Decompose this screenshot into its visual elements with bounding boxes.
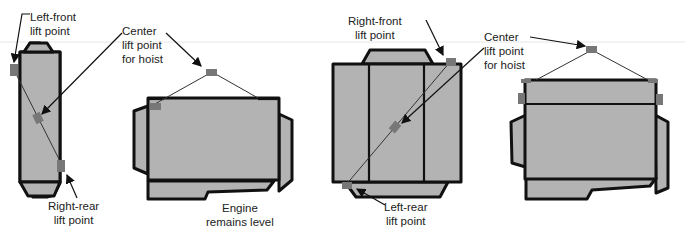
- engine-lift-diagram: Left-front lift point Center lift point …: [0, 0, 685, 245]
- label-center-lift-point-1: Center lift point for hoist: [122, 24, 163, 66]
- label-center-lift-point-2: Center lift point for hoist: [484, 30, 525, 72]
- label-left-rear-lift-point: Left-rear lift point: [384, 200, 427, 228]
- left-lift-point: [518, 93, 525, 104]
- center-lift-point: [586, 46, 597, 53]
- label-right-rear-lift-point: Right-rear lift point: [48, 199, 99, 227]
- left-rear-lift-point: [342, 182, 352, 189]
- label-left-front-lift-point: Left-front lift point: [30, 10, 76, 38]
- diagram-drawing: [0, 0, 685, 245]
- left-front-lift-point: [10, 64, 18, 76]
- center-lift-point: [206, 69, 217, 76]
- front-lift-point: [150, 103, 161, 110]
- label-right-front-lift-point: Right-front lift point: [348, 14, 402, 42]
- panel-3-engine-top-view: [333, 20, 484, 205]
- right-front-lift-point: [446, 58, 456, 66]
- label-engine-remains-level: Engine remains level: [206, 201, 274, 229]
- panel-4-engine-end-view: [511, 37, 668, 199]
- right-rear-lift-point: [57, 160, 65, 172]
- right-lift-point: [656, 94, 663, 105]
